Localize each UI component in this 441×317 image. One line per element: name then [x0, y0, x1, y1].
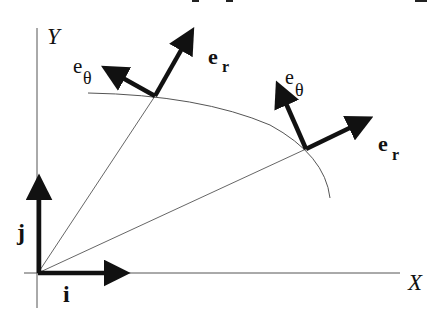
e-theta-label-1: e [73, 54, 82, 78]
cropped-top-text [192, 0, 427, 2]
e-theta-label-2: e [285, 66, 294, 88]
y-axis-label: Y [47, 24, 62, 49]
e-r-label-2: e [378, 131, 388, 156]
x-axis-label: X [407, 270, 423, 295]
e-r-label-1: e [208, 44, 218, 69]
e-theta-subscript-2: θ [295, 80, 304, 100]
e-theta-subscript-1: θ [83, 68, 92, 88]
e-r-subscript-1: r [222, 58, 229, 75]
trajectory-arc [88, 93, 330, 198]
polar-coordinates-diagram: Y X j i e θ e r e θ e r [0, 0, 441, 317]
radius-line-1 [38, 96, 155, 273]
j-label: j [16, 219, 25, 245]
e-r-vector-2 [306, 122, 362, 149]
e-r-vector-1 [155, 38, 188, 96]
radius-line-2 [38, 149, 306, 273]
i-label: i [63, 281, 70, 307]
e-r-subscript-2: r [392, 146, 399, 163]
e-theta-vector-1 [112, 72, 155, 96]
